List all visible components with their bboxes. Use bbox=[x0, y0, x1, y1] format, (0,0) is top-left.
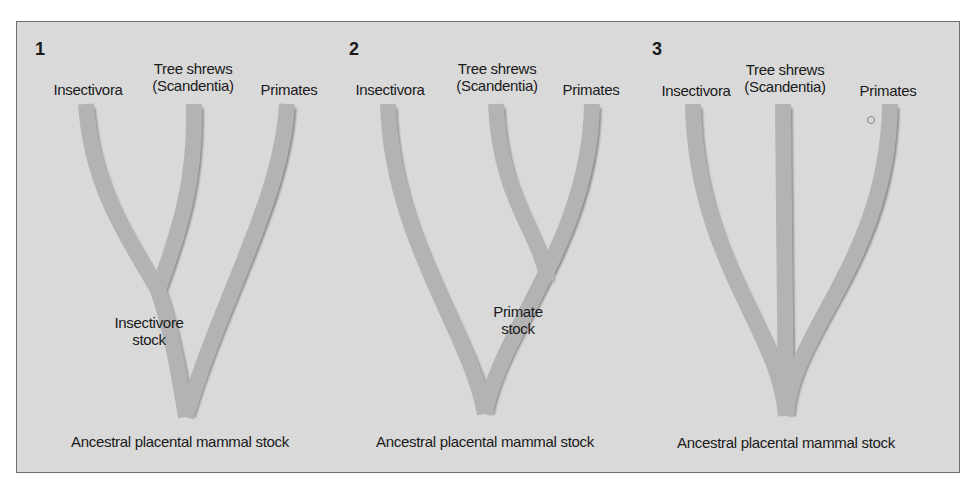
branch-insectivora bbox=[693, 104, 786, 416]
branch-tree-shrews bbox=[496, 104, 548, 282]
branch-tree-shrews bbox=[783, 104, 786, 416]
branch-primates bbox=[786, 104, 890, 416]
taxon-tree-shrews: Tree shrews (Scandentia) bbox=[744, 61, 825, 95]
panel-1-number: 1 bbox=[35, 39, 45, 60]
root-label: Ancestral placental mammal stock bbox=[376, 433, 594, 450]
branch-insectivora bbox=[388, 104, 485, 414]
taxon-primates: Primates bbox=[261, 81, 318, 98]
taxon-insectivora: Insectivora bbox=[661, 82, 730, 99]
root-label: Ancestral placental mammal stock bbox=[677, 434, 895, 451]
node-label-primate-stock: Primate stock bbox=[493, 303, 543, 337]
node-label-insectivore-stock: Insectivore stock bbox=[114, 314, 183, 348]
panel-1-tree bbox=[86, 104, 293, 417]
cursor-indicator bbox=[867, 116, 875, 124]
taxon-tree-shrews: Tree shrews (Scandentia) bbox=[152, 60, 233, 94]
taxon-primates: Primates bbox=[860, 82, 917, 99]
taxon-insectivora: Insectivora bbox=[355, 81, 424, 98]
branch-tree-shrews bbox=[158, 104, 194, 290]
panel-3-tree bbox=[693, 104, 896, 416]
panel-2-number: 2 bbox=[349, 39, 359, 60]
taxon-primates: Primates bbox=[563, 81, 620, 98]
root-label: Ancestral placental mammal stock bbox=[71, 433, 289, 450]
taxon-tree-shrews: Tree shrews (Scandentia) bbox=[456, 60, 537, 94]
panel-2-tree bbox=[388, 104, 598, 414]
taxon-insectivora: Insectivora bbox=[53, 81, 122, 98]
panel-3-number: 3 bbox=[652, 39, 662, 60]
